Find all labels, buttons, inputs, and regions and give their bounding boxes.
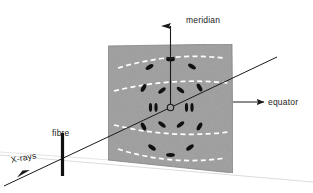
equator-label: equator	[268, 97, 298, 107]
fibre-label: fibre	[52, 128, 70, 138]
meridian-label: meridian	[186, 15, 220, 25]
beam-center-marker	[167, 104, 173, 110]
diffraction-diagram: meridian equator fibre X-rays	[0, 0, 313, 193]
diagram-canvas	[0, 0, 313, 193]
